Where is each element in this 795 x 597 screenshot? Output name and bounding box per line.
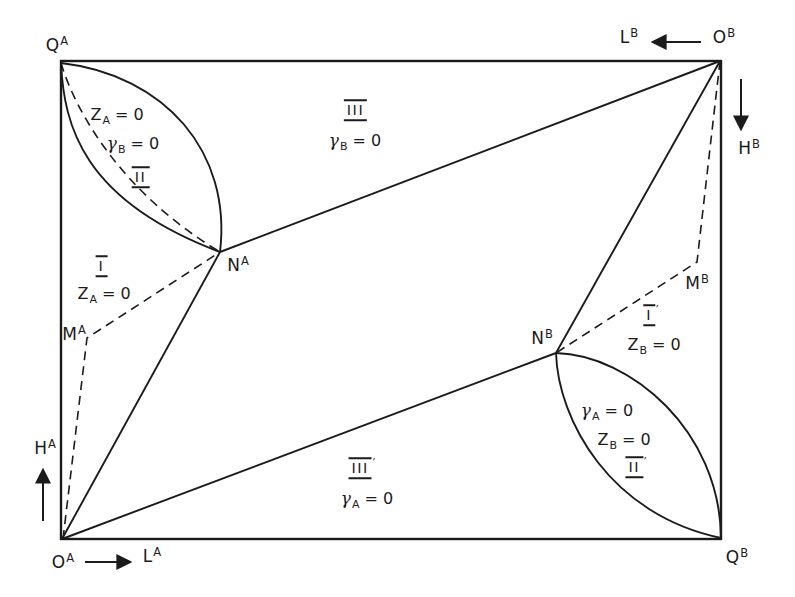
region-III-prime-numeral: III′ (349, 457, 376, 479)
region-I-prime-eq1-symbol: Z (627, 335, 638, 354)
point-label-OB: OB (713, 28, 735, 46)
point-label-NA: NA (227, 256, 249, 274)
axis-label-LA-base: L (143, 546, 152, 566)
region-II-numeral: II (132, 166, 151, 188)
region-II-eq1-symbol: Z (90, 105, 101, 124)
region-III-roman: III (344, 99, 367, 121)
region-I-prime-numeral: I′ (643, 304, 658, 326)
region-III-eq-gammaB: γB= 0 (329, 132, 381, 152)
curve-lens-A-upper (61, 63, 221, 252)
region-III-prime-eq1-subscript: A (352, 498, 360, 511)
curve-lens-A-lower (61, 63, 220, 252)
region-I-eq1-value: = 0 (102, 284, 131, 303)
axis-label-LB: LB (620, 28, 638, 46)
point-label-MA-base: M (62, 324, 77, 344)
point-label-NB-sup: B (545, 327, 553, 341)
point-label-QA: QA (46, 36, 68, 54)
axis-label-HA-base: H (34, 438, 47, 458)
region-III-eq1-subscript: B (340, 140, 348, 153)
point-label-MB: MB (685, 274, 709, 292)
axis-label-HB-sup: B (752, 137, 760, 151)
region-II-eq2-symbol: γ (107, 133, 117, 153)
point-label-QB: QB (726, 548, 748, 566)
point-label-QB-sup: B (740, 546, 748, 560)
line-NB-OB (556, 61, 720, 353)
axis-label-HA-sup: A (48, 437, 56, 451)
point-label-MA-sup: A (78, 323, 86, 337)
region-I-eq1-symbol: Z (77, 284, 88, 303)
axis-label-LB-sup: B (630, 26, 638, 40)
axis-label-LA-sup: A (153, 545, 161, 559)
region-II-prime-eq-ZB: ZB= 0 (597, 432, 650, 451)
region-II-roman: II (132, 166, 150, 188)
region-III-eq1-symbol: γ (329, 130, 339, 150)
line-NA-OB (220, 61, 720, 252)
point-label-OA-sup: A (66, 551, 74, 565)
point-label-MA: MA (62, 325, 86, 343)
region-I-eq1-subscript: A (89, 293, 97, 306)
region-I-prime-eq1-value: = 0 (652, 335, 681, 354)
region-I-prime-roman: I (643, 304, 655, 326)
region-II-prime-mark: ′ (644, 455, 647, 469)
point-label-OA: OA (52, 553, 74, 571)
region-III-prime-mark: ′ (373, 456, 376, 470)
axis-label-LA: LA (143, 547, 161, 565)
region-II-prime-eq2-value: = 0 (622, 430, 651, 449)
region-II-prime-numeral: II′ (625, 456, 646, 478)
line-OA-NB (62, 353, 556, 539)
region-III-numeral: III (344, 99, 368, 121)
region-III-eq1-value: = 0 (353, 131, 382, 150)
region-II-eq2-value: = 0 (131, 134, 160, 153)
point-label-MB-base: M (685, 273, 700, 293)
box-outline (61, 61, 721, 539)
axis-label-HB: HB (738, 139, 760, 157)
point-label-OA-base: O (52, 552, 65, 572)
region-II-prime-eq1-subscript: A (592, 410, 600, 423)
region-II-eq1-subscript: A (102, 114, 110, 127)
region-II-prime-eq-gammaA: γA= 0 (581, 402, 633, 422)
region-II-prime-eq1-symbol: γ (581, 400, 591, 420)
point-label-QA-sup: A (60, 34, 68, 48)
region-II-prime-eq1-value: = 0 (605, 401, 634, 420)
edgeworth-box-figure: QA OB OA QB NA NB MA MB LA LB HA HB ZA= … (0, 0, 795, 597)
curve-lens-A-dashed (61, 63, 220, 252)
region-III-prime-roman: III (349, 457, 372, 479)
point-label-QA-base: Q (46, 35, 59, 55)
region-I-prime-eq-ZB: ZB= 0 (627, 337, 680, 356)
region-I-numeral: I (96, 255, 109, 277)
region-II-eq1-value: = 0 (115, 105, 144, 124)
axis-label-HB-base: H (738, 138, 751, 158)
region-I-roman: I (96, 255, 108, 277)
region-II-eq2-subscript: B (118, 143, 126, 156)
point-label-NA-base: N (227, 255, 240, 275)
point-label-OB-base: O (713, 27, 726, 47)
region-II-prime-eq2-subscript: B (609, 439, 617, 452)
point-label-NB-base: N (531, 328, 544, 348)
point-label-NB: NB (531, 329, 553, 347)
region-I-eq-ZA: ZA= 0 (77, 286, 130, 305)
point-label-MB-sup: B (701, 272, 709, 286)
region-III-prime-eq-gammaA: γA= 0 (341, 490, 393, 510)
axis-label-LB-base: L (620, 27, 629, 47)
point-label-QB-base: Q (726, 547, 739, 567)
region-I-prime-eq1-subscript: B (639, 344, 647, 357)
region-II-prime-eq2-symbol: Z (597, 430, 608, 449)
region-II-prime-roman: II (625, 456, 643, 478)
region-III-prime-eq1-value: = 0 (365, 489, 394, 508)
region-I-prime-mark: ′ (656, 303, 659, 317)
point-label-OB-sup: B (727, 26, 735, 40)
region-III-prime-eq1-symbol: γ (341, 488, 351, 508)
axis-label-HA: HA (34, 439, 56, 457)
region-II-eq-gammaB: γB= 0 (107, 135, 159, 155)
point-label-NA-sup: A (241, 254, 249, 268)
region-II-eq-ZA: ZA= 0 (90, 107, 143, 126)
